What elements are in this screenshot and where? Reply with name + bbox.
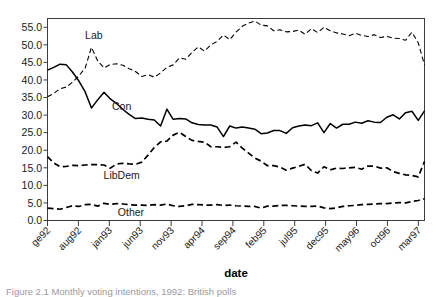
y-axis-tick-labels: 0.05.010.015.020.025.030.035.040.045.050… [22,21,43,226]
plot-frame [48,19,425,221]
y-tick-label: 30.0 [22,109,43,121]
x-tick-label: mar97 [395,224,423,252]
series-label-libdem: LibDem [104,169,140,181]
x-tick-label: nov93 [149,224,176,251]
x-tick-label: may96 [332,224,361,253]
x-tick-label: apr94 [181,224,207,250]
x-axis-tick-marks [48,221,419,227]
series-label-other: Other [118,206,145,218]
y-tick-label: 20.0 [22,144,43,156]
y-tick-label: 25.0 [22,126,43,138]
y-tick-label: 0.0 [27,214,42,226]
x-axis-tick-labels: ge92aug92jan93jun93nov93apr94sep94feb95j… [29,224,424,253]
y-axis-tick-marks [44,27,48,220]
x-tick-label: jul95 [276,224,300,248]
y-tick-label: 15.0 [22,162,43,174]
series-label-con: Con [112,100,131,112]
x-tick-label: jun93 [119,224,145,250]
series-line-other [48,199,425,210]
series-line-lab [48,21,425,97]
y-tick-label: 10.0 [22,179,43,191]
x-axis-title: date [224,267,248,279]
x-tick-label: aug92 [56,224,84,252]
y-tick-label: 45.0 [22,56,43,68]
y-tick-label: 40.0 [22,74,43,86]
x-tick-label: sep94 [211,224,238,251]
series-line-con [48,64,425,136]
x-tick-label: dec95 [303,224,330,251]
y-tick-label: 50.0 [22,39,43,51]
series-inline-labels: ConLabLibDemOther [85,29,144,218]
x-tick-label: jan93 [88,224,114,250]
y-tick-label: 5.0 [27,197,42,209]
x-tick-label: ge92 [29,224,53,248]
x-tick-label: oct96 [367,224,392,249]
x-tick-label: feb95 [243,224,269,250]
y-tick-label: 35.0 [22,91,43,103]
y-tick-label: 55.0 [22,21,43,33]
series-paths [48,21,425,209]
figure-caption: Figure 2.1 Monthly voting intentions, 19… [6,286,436,297]
series-label-lab: Lab [85,29,103,41]
